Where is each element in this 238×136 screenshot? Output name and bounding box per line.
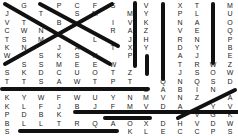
- grid-cell[interactable]: C: [191, 127, 203, 136]
- grid-cell[interactable]: K: [124, 127, 136, 136]
- grid-cell[interactable]: E: [157, 127, 169, 136]
- grid-cell[interactable]: S: [224, 127, 236, 136]
- grid-cell[interactable]: C: [174, 127, 186, 136]
- grid-cell[interactable]: S: [1, 127, 13, 136]
- grid-cell[interactable]: [71, 127, 83, 136]
- grid-cell[interactable]: [35, 127, 47, 136]
- grid-cell[interactable]: [89, 127, 101, 136]
- grid-cell[interactable]: [18, 127, 30, 136]
- letter-grid: GPCFSVXTMJTSMMYPLUVTBIVKNAOCWNRAZVEQTSML…: [0, 0, 238, 136]
- grid-cell[interactable]: P: [207, 127, 219, 136]
- word-search-puzzle: GPCFSVXTMJTSMMYPLUVTBIVKNAOCWNRAZVEQTSML…: [0, 0, 238, 136]
- grid-cell[interactable]: L: [140, 127, 152, 136]
- grid-cell[interactable]: [53, 127, 65, 136]
- grid-cell[interactable]: [107, 127, 119, 136]
